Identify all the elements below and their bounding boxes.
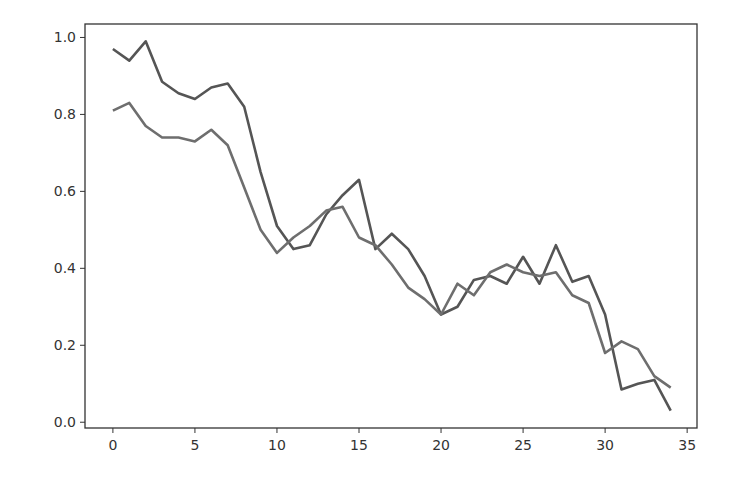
x-tick-label: 5 bbox=[190, 437, 199, 453]
line-series-1 bbox=[113, 41, 671, 410]
x-tick-label: 35 bbox=[678, 437, 696, 453]
x-tick-label: 15 bbox=[350, 437, 368, 453]
x-tick-label: 25 bbox=[514, 437, 532, 453]
line-series-2 bbox=[113, 103, 671, 388]
y-tick-label: 1.0 bbox=[54, 29, 76, 45]
x-tick-label: 0 bbox=[108, 437, 117, 453]
y-tick-label: 0.6 bbox=[54, 183, 76, 199]
y-tick-label: 0.0 bbox=[54, 414, 76, 430]
x-tick-label: 10 bbox=[268, 437, 286, 453]
axes-frame bbox=[85, 24, 697, 428]
line-chart: 05101520253035 0.00.20.40.60.81.0 bbox=[0, 0, 734, 479]
y-tick-label: 0.2 bbox=[54, 337, 76, 353]
x-tick-label: 30 bbox=[596, 437, 614, 453]
y-tick-label: 0.4 bbox=[54, 260, 76, 276]
x-tick-label: 20 bbox=[432, 437, 450, 453]
plot-lines bbox=[113, 41, 671, 410]
x-axis-ticks: 05101520253035 bbox=[108, 428, 696, 453]
y-tick-label: 0.8 bbox=[54, 106, 76, 122]
y-axis-ticks: 0.00.20.40.60.81.0 bbox=[54, 29, 85, 430]
